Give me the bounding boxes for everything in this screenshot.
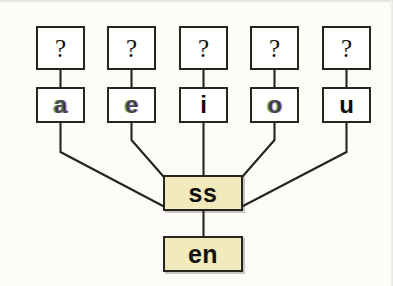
unknown-node-4-label: ? [269, 36, 280, 61]
vowel-node-a-label: a [54, 93, 67, 117]
vowel-node-e[interactable]: e [107, 87, 156, 123]
unknown-node-3[interactable]: ? [179, 26, 228, 70]
vowel-node-a[interactable]: a [36, 87, 85, 123]
edge-a-to-ss [61, 123, 164, 206]
morpheme-node-ss-label: ss [189, 181, 218, 206]
unknown-node-1[interactable]: ? [36, 26, 85, 70]
edge-o-to-ss [243, 123, 275, 176]
unknown-node-2[interactable]: ? [107, 26, 156, 70]
unknown-node-5[interactable]: ? [322, 26, 371, 70]
edge-e-to-ss [132, 123, 164, 176]
vowel-node-i[interactable]: i [179, 87, 228, 123]
unknown-node-2-label: ? [126, 36, 137, 61]
vowel-node-i-label: i [200, 93, 207, 117]
vowel-node-o[interactable]: o [250, 87, 299, 123]
morpheme-node-en[interactable]: en [163, 236, 243, 272]
diagram-canvas: ? ? ? ? ? a e i o u ss en [0, 0, 393, 286]
morpheme-node-ss[interactable]: ss [163, 175, 243, 211]
vowel-node-u[interactable]: u [322, 87, 371, 123]
vowel-node-e-label: e [125, 93, 138, 117]
edge-u-to-ss [243, 123, 347, 206]
unknown-node-3-label: ? [198, 36, 209, 61]
unknown-node-5-label: ? [341, 36, 352, 61]
unknown-node-1-label: ? [55, 36, 66, 61]
morpheme-node-en-label: en [188, 242, 218, 267]
vowel-node-o-label: o [267, 93, 282, 117]
vowel-node-u-label: u [339, 93, 354, 117]
unknown-node-4[interactable]: ? [250, 26, 299, 70]
